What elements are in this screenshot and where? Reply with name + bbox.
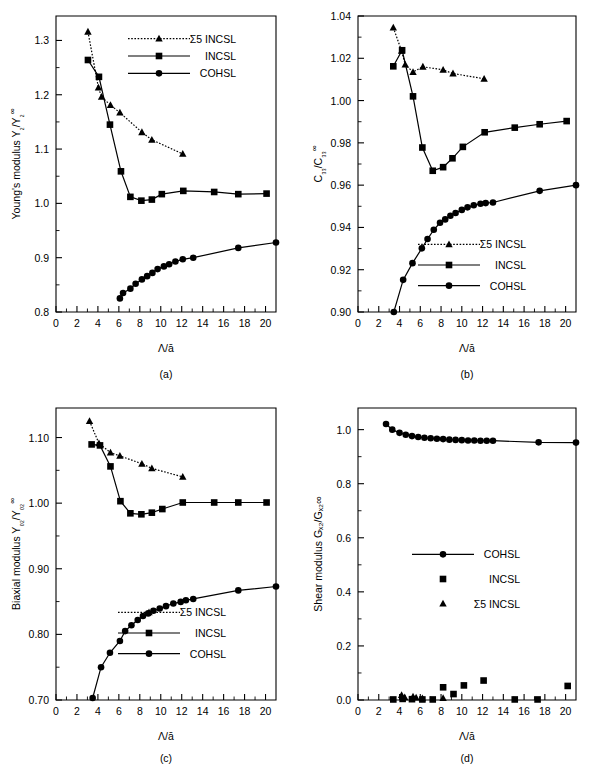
x-tick-label: 0: [53, 705, 59, 717]
data-point: [89, 695, 96, 702]
x-tick-label: 12: [176, 705, 188, 717]
data-point: [235, 191, 242, 198]
data-point: [464, 204, 471, 211]
data-point: [107, 463, 114, 470]
data-point: [391, 309, 398, 316]
legend-marker: [440, 576, 447, 583]
data-point: [96, 74, 103, 81]
x-tick-label: 16: [518, 317, 530, 329]
data-point: [440, 436, 447, 443]
data-point: [429, 696, 436, 703]
data-point: [396, 430, 403, 437]
data-point: [459, 207, 466, 214]
y-tick-label: 1.3: [34, 34, 49, 46]
x-tick-label: 0: [53, 317, 59, 329]
x-tick-label: 18: [539, 705, 551, 717]
data-point: [118, 168, 125, 175]
x-tick-label: 2: [376, 705, 382, 717]
data-point: [511, 696, 518, 703]
data-point: [263, 190, 270, 197]
legend-label: COHSL: [484, 548, 520, 560]
y-axis-title: Biaxial modulus Y₀₂/Y₀₂∞: [8, 498, 25, 610]
data-point: [149, 196, 156, 203]
data-point: [459, 437, 466, 444]
data-point: [97, 442, 104, 449]
x-tick-label: 18: [239, 317, 251, 329]
y-tick-label: 0.4: [336, 586, 351, 598]
x-tick-label: 20: [560, 705, 572, 717]
data-point: [211, 499, 218, 506]
data-point: [148, 464, 155, 471]
y-tick-label: 1.04: [331, 10, 352, 22]
series-σ5-incsl: [84, 28, 186, 157]
x-tick-label: 12: [477, 317, 489, 329]
x-axis-title: Λ/ā: [158, 342, 174, 354]
data-point: [390, 24, 397, 31]
legend-marker: [156, 70, 163, 77]
y-tick-label: 0.90: [29, 563, 50, 575]
x-tick-label: 8: [438, 317, 444, 329]
legend-label: COHSL: [190, 648, 226, 660]
data-point: [429, 167, 436, 174]
x-tick-label: 6: [116, 705, 122, 717]
x-tick-label: 2: [376, 317, 382, 329]
data-point: [179, 256, 186, 263]
data-point: [84, 28, 91, 35]
y-axis-title: Young's modulus Y₂/Y₂∞: [8, 108, 25, 219]
x-tick-label: 8: [137, 705, 143, 717]
series-incsl: [88, 441, 270, 517]
panel-d: 024681012141618200.00.20.40.60.81.0Λ/āSh…: [300, 390, 599, 771]
data-point: [482, 200, 489, 207]
legend-marker: [146, 650, 153, 657]
y-tick-label: 0.92: [331, 264, 352, 276]
data-point: [419, 144, 426, 151]
data-point: [481, 129, 488, 136]
legend-label: Σ5 INCSL: [180, 606, 226, 618]
data-point: [534, 696, 541, 703]
data-point: [190, 254, 197, 261]
x-tick-label: 18: [539, 317, 551, 329]
x-tick-label: 4: [397, 317, 403, 329]
legend-marker: [440, 551, 447, 558]
data-point: [235, 245, 242, 252]
x-tick-label: 2: [74, 317, 80, 329]
data-point: [159, 191, 166, 198]
data-point: [415, 434, 422, 441]
legend: Σ5 INCSLINCSLCOHSL: [418, 238, 526, 291]
data-point: [427, 435, 434, 442]
y-tick-label: 1.0: [34, 197, 49, 209]
data-point: [409, 260, 416, 267]
legend-label: INCSL: [205, 50, 236, 62]
data-point: [450, 691, 457, 698]
data-point: [452, 437, 459, 444]
data-point: [449, 155, 456, 162]
x-tick-label: 14: [197, 317, 209, 329]
data-point: [86, 417, 93, 424]
data-point: [179, 150, 186, 157]
data-point: [490, 437, 497, 444]
data-point: [148, 136, 155, 143]
data-point: [273, 583, 280, 590]
y-tick-label: 0.90: [331, 306, 352, 318]
y-tick-label: 0.98: [331, 137, 352, 149]
y-tick-label: 1.1: [34, 143, 49, 155]
x-tick-label: 20: [260, 317, 272, 329]
series-cohsl: [89, 583, 279, 701]
x-tick-label: 4: [95, 705, 101, 717]
data-point: [449, 70, 456, 77]
data-point: [149, 509, 156, 516]
data-point: [98, 664, 105, 671]
legend-label: COHSL: [490, 280, 526, 292]
x-tick-label: 6: [417, 317, 423, 329]
panel-caption: (d): [461, 752, 474, 764]
data-point: [424, 236, 431, 243]
data-point: [573, 182, 580, 189]
data-point: [399, 47, 406, 54]
y-tick-label: 0.80: [29, 628, 50, 640]
x-tick-label: 4: [95, 317, 101, 329]
data-point: [88, 441, 95, 448]
data-point: [211, 189, 218, 196]
series-cohsl: [383, 421, 580, 446]
x-tick-label: 18: [239, 705, 251, 717]
data-point: [419, 245, 426, 252]
